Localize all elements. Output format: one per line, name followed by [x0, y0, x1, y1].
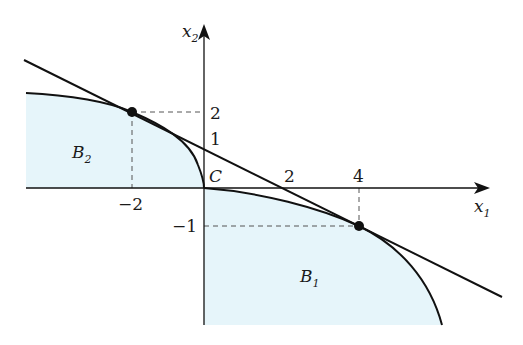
region-b2	[26, 93, 204, 188]
tick-y-1: 1	[210, 129, 221, 149]
tick-y-neg1: −1	[172, 216, 197, 236]
tick-x-4: 4	[353, 166, 364, 186]
tick-x-2: 2	[284, 166, 295, 186]
origin-label: C	[209, 166, 222, 186]
x1-axis-label: x1	[474, 196, 491, 220]
diagram-canvas: x2 x1 2 1 −1 −2 2 4 C B2 B1	[0, 0, 523, 345]
tick-x-neg2: −2	[118, 194, 143, 214]
x2-axis-label: x2	[182, 21, 199, 45]
tick-y-2: 2	[210, 103, 221, 123]
tangent-point-b1	[354, 221, 364, 231]
tangent-point-b2	[127, 107, 137, 117]
